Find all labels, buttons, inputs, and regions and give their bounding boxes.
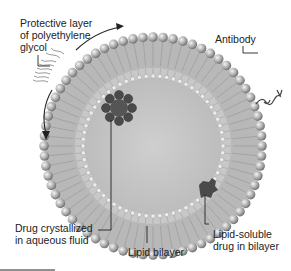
label-peg-line1: Protective layer <box>20 17 92 29</box>
label-drug-aqueous-line1: Drug crystallized <box>15 222 93 234</box>
drug-crystal-icon <box>102 91 137 126</box>
label-lipid-soluble-line1: Lipid-soluble <box>213 228 279 240</box>
label-lipid-soluble-line2: drug in bilayer <box>213 240 279 252</box>
antibody-icon <box>256 90 282 105</box>
label-lipid-soluble: Lipid-soluble drug in bilayer <box>213 228 279 252</box>
label-drug-aqueous-line2: in aqueous fluid <box>15 234 93 246</box>
label-lipid-bilayer: Lipid bilayer <box>128 246 184 258</box>
label-drug-aqueous: Drug crystallized in aqueous fluid <box>15 222 93 246</box>
arrowhead-top-icon <box>116 23 124 30</box>
label-antibody: Antibody <box>215 33 256 45</box>
label-peg-line3: glycol <box>20 41 92 53</box>
label-peg-line2: of polyethylene <box>20 29 92 41</box>
label-peg: Protective layer of polyethylene glycol <box>20 17 92 53</box>
